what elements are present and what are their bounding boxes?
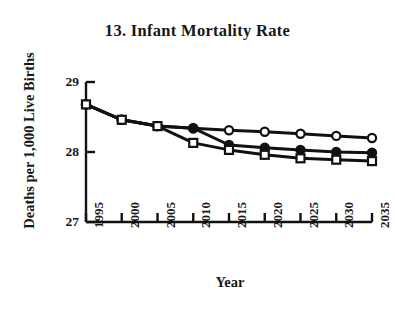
data-point-open-square xyxy=(118,116,126,124)
chart-figure: 13. Infant Mortality Rate Deaths per 1,0… xyxy=(0,0,395,314)
x-tick-label: 2005 xyxy=(164,182,177,228)
x-tick-label: 2015 xyxy=(235,182,248,228)
data-point-open-square xyxy=(154,122,162,130)
y-tick-label: 27 xyxy=(53,215,79,229)
data-point-filled-circle xyxy=(296,146,304,154)
data-point-open-square xyxy=(225,146,233,154)
x-tick-label: 2020 xyxy=(271,182,284,228)
x-tick-label: 2030 xyxy=(342,182,355,228)
data-point-open-square xyxy=(297,154,305,162)
x-tick-label: 2000 xyxy=(128,182,141,228)
data-point-open-circle xyxy=(368,134,376,142)
data-point-filled-circle xyxy=(189,124,197,132)
x-tick-label: 1995 xyxy=(92,182,105,228)
x-tick-label: 2025 xyxy=(307,182,320,228)
data-point-open-square xyxy=(82,100,90,108)
x-tick-label: 2035 xyxy=(378,182,391,228)
data-point-open-square xyxy=(332,156,340,164)
data-point-open-circle xyxy=(225,126,233,134)
x-tick-label: 2010 xyxy=(199,182,212,228)
data-point-open-circle xyxy=(261,128,269,136)
data-point-open-square xyxy=(368,157,376,165)
data-point-open-circle xyxy=(296,130,304,138)
y-tick-label: 29 xyxy=(53,75,79,89)
y-tick-label: 28 xyxy=(53,145,79,159)
data-point-open-square xyxy=(261,151,269,159)
data-point-filled-circle xyxy=(368,149,376,157)
data-point-open-square xyxy=(189,139,197,147)
data-point-open-circle xyxy=(332,132,340,140)
